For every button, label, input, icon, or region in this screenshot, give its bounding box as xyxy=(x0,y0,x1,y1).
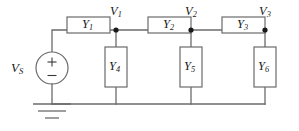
component-label-y2: Y2 xyxy=(163,18,174,31)
circuit-schematic-canvas xyxy=(0,0,299,131)
component-label-y3: Y3 xyxy=(237,18,248,31)
node-dot-v2 xyxy=(188,27,193,32)
source-top-wire-group xyxy=(52,30,67,52)
ground-icon xyxy=(33,104,71,118)
node-label-v1: V1 xyxy=(110,5,122,18)
voltage-source-symbol xyxy=(36,52,68,84)
component-label-y4: Y4 xyxy=(109,60,120,73)
circuit-diagram: VS Y1 Y2 Y3 Y4 Y5 Y6 V1 V2 V3 xyxy=(0,0,299,131)
component-label-y5: Y5 xyxy=(184,60,195,73)
node-label-v3: V3 xyxy=(259,5,271,18)
wire-source-to-y1 xyxy=(52,30,67,52)
node-label-v2: V2 xyxy=(185,5,197,18)
source-label: VS xyxy=(11,61,23,74)
component-label-y1: Y1 xyxy=(82,18,93,31)
node-dot-v1 xyxy=(113,27,118,32)
component-label-y6: Y6 xyxy=(258,60,269,73)
node-dot-v3 xyxy=(262,27,267,32)
